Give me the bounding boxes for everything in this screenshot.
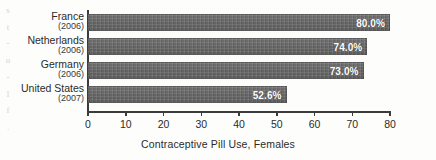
x-tick (276, 111, 278, 116)
category-year: (2006) (41, 70, 84, 79)
x-tick (125, 111, 127, 116)
x-tick (163, 111, 165, 116)
x-tick-label: 40 (233, 118, 245, 130)
margin-fragment: o (6, 56, 11, 65)
bar-netherlands: 74.0% (88, 38, 367, 55)
x-axis-title: Contraceptive Pill Use, Females (0, 138, 436, 150)
x-tick-label: 10 (120, 118, 132, 130)
x-tick (87, 111, 89, 116)
x-tick-label: 30 (195, 118, 207, 130)
x-tick (389, 111, 391, 116)
bar-value-label: 52.6% (253, 89, 282, 100)
category-label-france: France (2006) (51, 11, 84, 31)
category-label-germany: Germany (2006) (41, 59, 84, 79)
bar-value-label: 80.0% (356, 17, 385, 28)
margin-fragment: s (6, 6, 10, 15)
bar-germany: 73.0% (88, 62, 364, 79)
bar-row: 52.6% (88, 86, 287, 103)
x-tick-label: 80 (384, 118, 396, 130)
bar-row: 80.0% (88, 14, 390, 31)
plot-area: 80.0% 74.0% 73.0% 52.6% 0102030405060708… (88, 12, 390, 110)
category-label-united-states: United States (2007) (21, 83, 84, 103)
bar-chart-figure: s t - o - l f . France (2006) Netherland… (0, 0, 436, 160)
x-tick-label: 50 (271, 118, 283, 130)
scanned-margin-text: s t - o - l f . (0, 6, 16, 132)
category-year: (2007) (21, 94, 84, 103)
x-tick (314, 111, 316, 116)
margin-fragment: l (7, 90, 10, 99)
x-tick-label: 60 (309, 118, 321, 130)
x-tick (201, 111, 203, 116)
bar-value-label: 74.0% (333, 41, 362, 52)
margin-fragment: f (7, 106, 10, 115)
margin-fragment: t (7, 23, 10, 32)
x-tick-label: 20 (158, 118, 170, 130)
category-year: (2006) (27, 46, 84, 55)
margin-fragment: . (7, 123, 9, 132)
x-tick (238, 111, 240, 116)
category-label-netherlands: Netherlands (2006) (27, 35, 84, 55)
bar-france: 80.0% (88, 14, 390, 31)
margin-fragment: - (7, 73, 10, 82)
x-tick-label: 0 (85, 118, 91, 130)
margin-fragment: - (7, 39, 10, 48)
bar-value-label: 73.0% (330, 65, 359, 76)
x-tick (352, 111, 354, 116)
bar-row: 74.0% (88, 38, 367, 55)
x-tick-label: 70 (346, 118, 358, 130)
category-year: (2006) (51, 22, 84, 31)
bar-row: 73.0% (88, 62, 364, 79)
bar-united-states: 52.6% (88, 86, 287, 103)
